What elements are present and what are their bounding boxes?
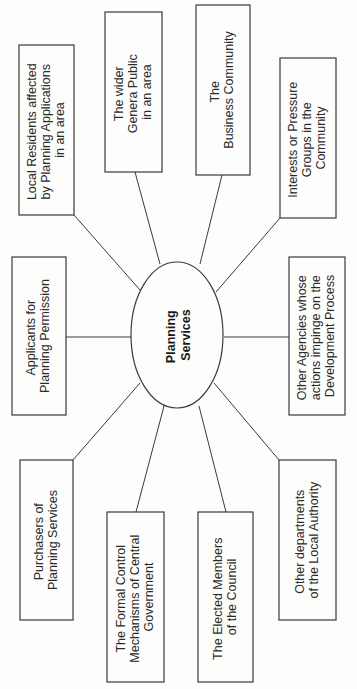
svg-text:Purchasers of Planning S: Purchasers of Planning Services: [32, 490, 60, 590]
node-wider-public: The wider Genera Public in an area: [105, 12, 162, 172]
node-label-line: Local Residents affected: [25, 63, 39, 200]
node-purchasers: Purchasers of Planning Services: [20, 460, 73, 620]
svg-text:Other Agencies whose act: Other Agencies whose actions impinge on …: [295, 272, 337, 401]
node-label-line: Interests or Pressure: [286, 82, 300, 198]
node-label-line: Other departments: [293, 490, 307, 594]
node-other-departments: Other departments of the Local Authority: [279, 460, 336, 620]
node-label-line: Planning Permission: [38, 279, 52, 393]
node-label-line: of the Council: [225, 559, 239, 635]
node-label-line: in an area: [53, 102, 67, 158]
node-label-line: Community: [314, 106, 328, 170]
node-other-agencies: Other Agencies whose actions impinge on …: [289, 257, 345, 415]
svg-text:Planning Services: Planning Services: [164, 307, 193, 363]
node-label-line: Planning Services: [46, 490, 60, 590]
node-label-line: Business Community: [222, 31, 236, 149]
node-label-line: Other Agencies whose: [295, 275, 309, 400]
node-label-line: Genera Public: [126, 54, 140, 133]
node-local-residents: Local Residents affected by Planning App…: [19, 45, 74, 215]
node-interest-groups: Interests or Pressure Groups in the Comm…: [280, 58, 336, 218]
node-business-community: The Business Community: [196, 5, 250, 175]
node-label-line: Government: [142, 562, 156, 631]
node-label-line: The Elected Members: [211, 538, 225, 660]
node-label-line: The wider: [112, 66, 126, 121]
node-label-line: actions impinge on the: [309, 275, 323, 400]
center-node-planning-services: Planning Services: [131, 262, 223, 408]
node-label-line: Applicants for: [24, 300, 38, 376]
node-central-government: The Formal Control Mechanisms of Central…: [107, 512, 164, 682]
center-label-line: Planning: [164, 310, 178, 363]
node-label-line: The Formal Control: [114, 545, 128, 653]
node-label-line: The: [208, 81, 222, 103]
node-label-line: Purchasers of: [32, 503, 46, 581]
stakeholder-diagram: Planning Services Local Residents affect…: [0, 0, 357, 689]
node-applicants: Applicants for Planning Permission: [12, 257, 66, 415]
svg-text:Other departments of the: Other departments of the Local Authority: [293, 481, 321, 598]
node-label-line: in an area: [140, 64, 154, 120]
node-label-line: Mechanisms of Central: [128, 535, 142, 663]
node-label-line: by Planning Applications: [39, 64, 53, 200]
center-label-line: Services: [179, 309, 193, 360]
node-label-line: Groups in the: [300, 102, 314, 177]
node-label-line: Development Process: [323, 275, 337, 397]
node-label-line: of the Local Authority: [307, 481, 321, 598]
node-elected-members: The Elected Members of the Council: [198, 512, 253, 682]
